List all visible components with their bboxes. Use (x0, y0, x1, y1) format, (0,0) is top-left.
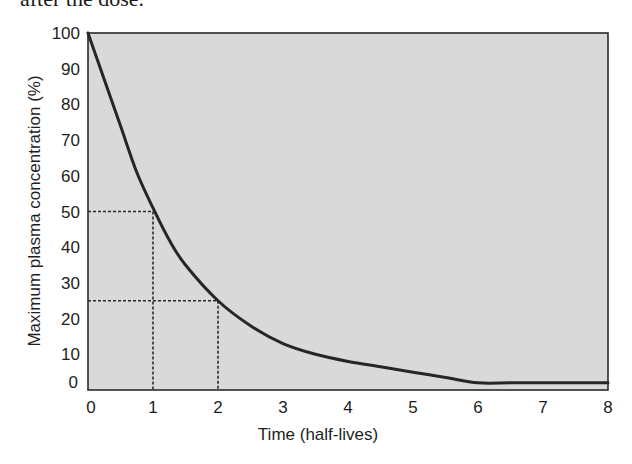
x-tick-label: 1 (148, 398, 157, 417)
x-axis-ticks: 012345678 (86, 398, 612, 417)
x-tick-label: 2 (213, 398, 222, 417)
y-tick-label: 60 (61, 167, 80, 186)
x-axis-label: Time (half-lives) (258, 425, 378, 444)
x-tick-label: 5 (408, 398, 417, 417)
y-tick-label: 80 (61, 95, 80, 114)
x-tick-label: 6 (473, 398, 482, 417)
y-axis-label: Maximum plasma concentration (%) (25, 75, 44, 346)
y-tick-label: 100 (52, 24, 80, 43)
x-tick-label: 3 (278, 398, 287, 417)
y-axis-ticks: 0102030405060708090100 (52, 24, 80, 392)
y-tick-label: 70 (61, 131, 80, 150)
y-tick-label: 40 (61, 238, 80, 257)
y-tick-label: 0 (69, 373, 78, 392)
y-tick-label: 20 (61, 310, 80, 329)
x-tick-label: 7 (538, 398, 547, 417)
x-tick-label: 0 (86, 398, 95, 417)
y-tick-label: 90 (61, 60, 80, 79)
y-tick-label: 30 (61, 274, 80, 293)
concentration-chart: 0102030405060708090100 012345678 Time (h… (0, 0, 632, 464)
y-tick-label: 50 (61, 203, 80, 222)
y-tick-label: 10 (61, 345, 80, 364)
x-tick-label: 8 (603, 398, 612, 417)
plot-area (88, 33, 608, 390)
x-tick-label: 4 (343, 398, 352, 417)
